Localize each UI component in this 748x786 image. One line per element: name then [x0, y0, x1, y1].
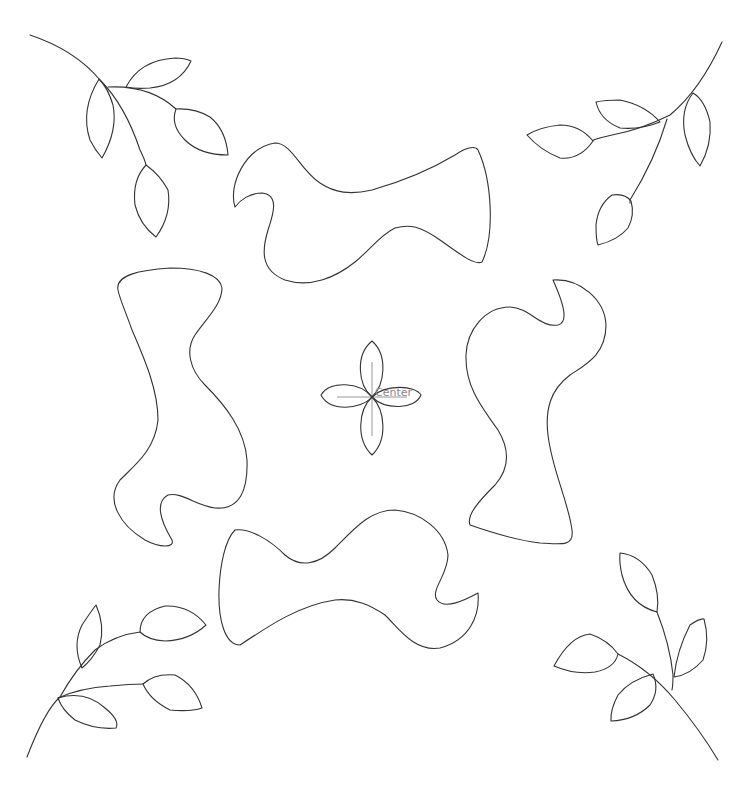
branch-stem — [618, 654, 718, 760]
wavy-shape-left — [114, 268, 247, 546]
leaf — [143, 675, 202, 711]
leaf — [596, 195, 632, 245]
branch-twig — [108, 87, 176, 109]
leaf-branch-bottom-left — [27, 605, 206, 757]
leaf — [527, 125, 593, 158]
leaf — [58, 696, 117, 729]
leaf — [674, 619, 707, 677]
wavy-shape-bottom — [219, 510, 478, 648]
leaf — [554, 634, 618, 673]
leaf — [77, 605, 102, 668]
leaf-branch-bottom-right — [554, 553, 718, 760]
leaf-branch-top-right — [527, 42, 722, 245]
center-flower: Center — [321, 341, 421, 455]
leaf — [611, 674, 656, 721]
leaf-branch-top-left — [30, 35, 228, 237]
branch-twig — [657, 612, 673, 690]
leaf — [684, 93, 711, 166]
wavy-shape-top — [233, 143, 490, 283]
branch-twig — [630, 119, 667, 203]
leaf — [140, 606, 206, 641]
leaf — [126, 58, 191, 88]
leaf — [134, 165, 168, 237]
branch-stem — [27, 632, 140, 757]
leaf — [174, 109, 228, 155]
branch-stem — [593, 42, 722, 141]
wavy-shape-right — [466, 280, 606, 544]
center-label: Center — [375, 386, 413, 399]
leaf — [620, 553, 658, 612]
quilt-pattern-canvas: Center — [0, 0, 748, 786]
branch-stem — [30, 35, 146, 165]
